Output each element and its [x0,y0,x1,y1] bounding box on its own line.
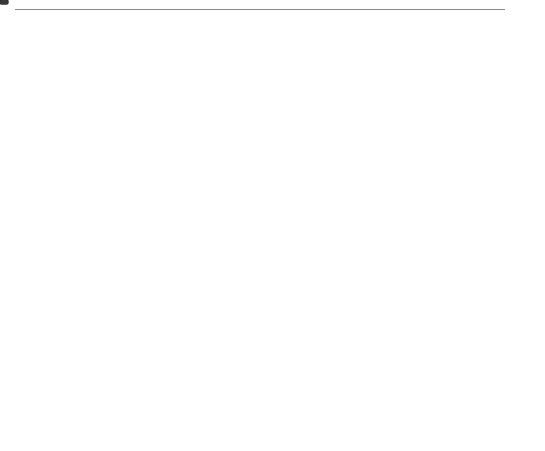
edges-layer [0,0,545,451]
node-system-testing-part-3[interactable] [0,0,8,4]
